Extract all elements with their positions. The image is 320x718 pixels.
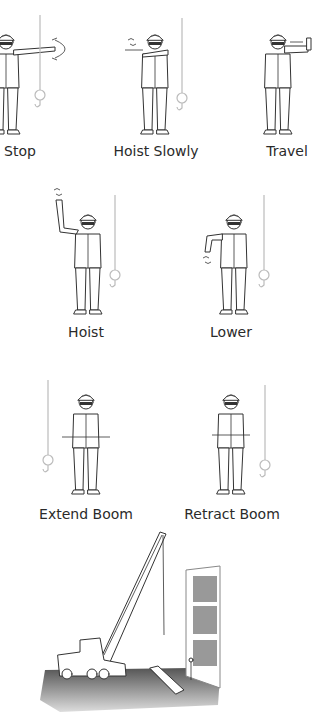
crane-illustration-icon xyxy=(0,0,320,718)
